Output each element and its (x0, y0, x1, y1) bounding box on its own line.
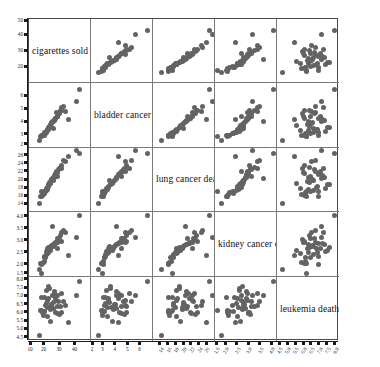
data-point (325, 125, 330, 130)
data-point (66, 320, 71, 325)
data-point (77, 87, 82, 92)
diagonal-panel-lung: lung cancer deaths (153, 148, 215, 212)
data-point (271, 87, 276, 92)
data-point (77, 279, 82, 284)
data-point (43, 255, 48, 260)
data-point (112, 178, 117, 183)
data-point (280, 70, 285, 75)
data-point (53, 296, 58, 301)
scatter-panel-lung-vs-leukemia (153, 277, 215, 341)
x-tick-label: 4 (114, 346, 117, 352)
data-point (219, 333, 224, 338)
data-point (257, 104, 262, 109)
data-point (100, 271, 105, 276)
data-point (74, 293, 79, 298)
y-tick-label: 26 (18, 152, 23, 158)
data-point (145, 279, 150, 284)
data-point (319, 32, 324, 37)
x-tick-mark (247, 341, 250, 345)
data-point (280, 138, 285, 143)
data-point (50, 224, 55, 229)
y-tick-label: 2 (20, 141, 23, 147)
data-point (48, 319, 53, 324)
data-point (204, 320, 209, 325)
data-point (145, 213, 150, 218)
y-tick-label: 30 (18, 47, 23, 53)
matrix-grid: cigarettes sold perbladder cancer deathl… (28, 18, 338, 340)
data-point (186, 54, 191, 59)
variable-label-bladder: bladder cancer death (94, 110, 153, 120)
data-point (292, 253, 297, 258)
data-point (77, 151, 82, 156)
data-point (300, 166, 305, 171)
data-point (257, 45, 262, 50)
data-point (219, 70, 224, 75)
data-point (171, 255, 176, 260)
data-point (181, 121, 186, 126)
diagonal-panel-leukemia: leukemia deaths per (277, 277, 339, 341)
data-point (215, 308, 220, 313)
x-tick-mark (235, 341, 238, 345)
x-tick-label: 30 (56, 346, 61, 352)
data-point (57, 166, 62, 171)
data-point (49, 178, 54, 183)
data-point (207, 87, 212, 92)
data-point (192, 291, 197, 296)
data-point (175, 296, 180, 301)
data-point (248, 312, 253, 317)
x-tick-label: 22 (188, 346, 196, 354)
y-tick-label: 5.0 (17, 325, 23, 331)
data-point (57, 312, 62, 317)
data-point (294, 123, 299, 128)
data-point (248, 111, 253, 116)
data-point (204, 117, 209, 122)
data-point (174, 314, 179, 319)
y-tick-label: 5.5 (17, 317, 23, 323)
data-point (37, 138, 42, 143)
diagonal-panel-cigarettes: cigarettes sold per (29, 19, 91, 83)
data-point (200, 228, 205, 233)
data-point (133, 148, 138, 153)
variable-label-leukemia: leukemia deaths per (280, 304, 339, 314)
data-point (116, 253, 121, 258)
data-point (66, 117, 71, 122)
x-tick-label: 14 (157, 346, 165, 354)
data-point (200, 299, 205, 304)
y-tick-label: 6.0 (17, 309, 23, 315)
data-point (207, 279, 212, 284)
data-point (325, 248, 330, 253)
data-point (320, 117, 325, 122)
x-tick-label: 2.0 (222, 346, 231, 355)
y-tick-label: 50 (18, 17, 23, 23)
scatter-panel-kidney-vs-leukemia (215, 277, 277, 341)
data-point (261, 119, 266, 124)
variable-label-kidney: kidney cancer death (218, 239, 277, 249)
data-point (271, 279, 276, 284)
data-point (233, 154, 238, 159)
data-point (122, 49, 127, 54)
data-point (177, 286, 182, 291)
data-point (37, 267, 42, 272)
x-tick-mark (91, 341, 94, 345)
y-tick-label: 4.5 (17, 334, 23, 340)
data-point (319, 148, 324, 153)
data-point (294, 181, 299, 186)
data-point (245, 291, 250, 296)
data-point (292, 117, 297, 122)
x-tick-mark (58, 341, 61, 345)
data-point (313, 228, 318, 233)
data-point (323, 129, 328, 134)
x-tick-mark (258, 341, 261, 345)
data-point (116, 40, 121, 45)
data-point (171, 131, 176, 136)
data-point (116, 154, 121, 159)
data-point (250, 148, 255, 153)
data-point (313, 45, 318, 50)
data-point (233, 40, 238, 45)
data-point (315, 127, 320, 132)
data-point (257, 158, 262, 163)
data-point (309, 58, 314, 63)
data-point (129, 158, 134, 163)
y-tick-label: 16 (18, 192, 23, 198)
data-point (133, 32, 138, 37)
